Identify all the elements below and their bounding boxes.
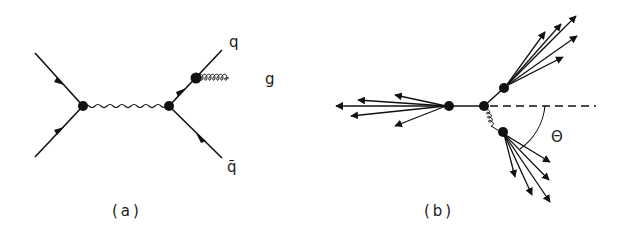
vertex-dot bbox=[78, 101, 88, 111]
outgoing-antiquark bbox=[169, 106, 222, 158]
feynman-figure: q g q̄ (a) bbox=[0, 0, 622, 234]
upper-jet bbox=[506, 16, 577, 86]
jet-origin-dot bbox=[499, 83, 509, 93]
vertex-dot bbox=[191, 73, 202, 84]
vertex-dot bbox=[164, 101, 174, 111]
vertex-dot bbox=[479, 101, 489, 111]
panel-a: q g q̄ (a) bbox=[35, 33, 275, 220]
gluon-line bbox=[486, 110, 501, 132]
label-antiquark: q̄ bbox=[227, 158, 237, 176]
fermion-arrow-icon bbox=[176, 88, 186, 97]
panel-b: Θ (b) bbox=[336, 16, 596, 220]
caption-a: (a) bbox=[112, 202, 142, 220]
jet-origin-dot bbox=[498, 127, 508, 137]
caption-b: (b) bbox=[424, 202, 454, 220]
left-jet bbox=[336, 95, 446, 126]
lower-jet bbox=[504, 134, 550, 202]
label-quark: q bbox=[229, 33, 239, 51]
label-theta: Θ bbox=[551, 128, 563, 146]
fermion-arrow-icon bbox=[54, 127, 64, 135]
label-gluon: g bbox=[265, 70, 275, 88]
photon-propagator bbox=[83, 105, 169, 108]
gluon-line bbox=[197, 74, 229, 80]
angle-arc bbox=[520, 106, 545, 149]
fermion-arrow-icon bbox=[196, 133, 206, 143]
fermion-arrow-icon bbox=[54, 77, 64, 85]
